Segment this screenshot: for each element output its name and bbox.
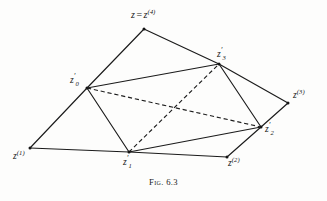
vertex-label-z3p: z′3 [217, 50, 226, 60]
vertex-label-z3: z(3) [293, 91, 305, 101]
vertex-label-z4: z=z(4) [131, 10, 155, 20]
edge-z0p-z1p [87, 88, 129, 152]
vertex-label-z1: z(1) [13, 152, 25, 162]
edge-z1p-z2 [129, 152, 227, 157]
edge-z1p-z2p [129, 127, 261, 152]
vertex-dot-z3p [218, 63, 221, 66]
edge-z3p-z2p [219, 64, 261, 127]
vertex-label-z1p: z′1 [123, 158, 132, 168]
edge-z3p-z3 [219, 64, 288, 103]
vertex-dots-group [29, 28, 290, 159]
vertex-dot-z0p [86, 87, 89, 90]
vertex-label-z2: z(2) [228, 159, 240, 169]
edge-z4-z3p [144, 29, 219, 64]
vertex-dot-z4 [143, 28, 146, 31]
solid-edges-group [30, 29, 288, 157]
figure-diagram [0, 0, 327, 201]
edge-z2-z2p [227, 127, 261, 157]
vertex-dot-z1 [29, 147, 32, 150]
dashed-edges-group [87, 64, 261, 152]
vertex-dot-z2p [260, 126, 263, 129]
edge-z1-z1p [30, 148, 129, 152]
edge-dashed-z1p-z3p [129, 64, 219, 152]
figure-container: z=z(4)z′0z′3z(3)z′2z(1)z′1z(2) Fig. 6.3 [0, 0, 327, 201]
vertex-label-z2p: z′2 [265, 125, 274, 135]
figure-caption: Fig. 6.3 [0, 177, 327, 187]
edge-z0p-z1 [30, 88, 87, 148]
vertex-dot-z3 [287, 102, 290, 105]
vertex-label-z0p: z′0 [70, 76, 79, 86]
